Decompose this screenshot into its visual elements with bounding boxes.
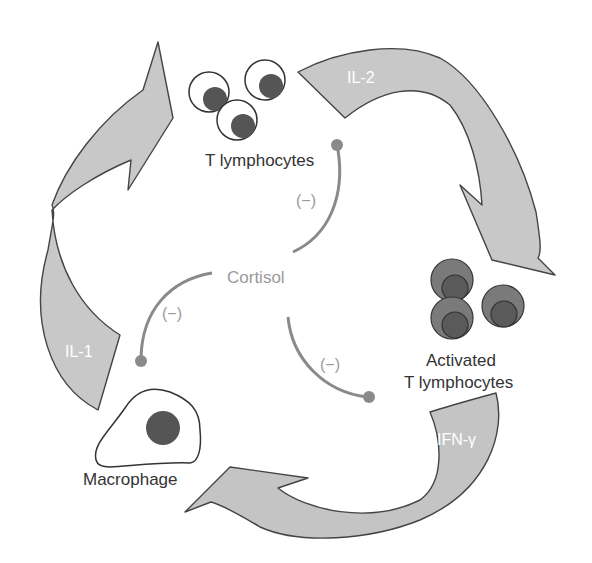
- ifng-arrow: [185, 393, 499, 538]
- il1-arrow: [41, 42, 173, 410]
- t-lymphocytes-cells: [189, 60, 285, 140]
- macrophage-cell: [95, 389, 200, 467]
- activated-label-line1: Activated: [426, 351, 496, 370]
- inhibition-sign-activated: (−): [320, 356, 340, 373]
- inhibition-sign-t-lymphocytes: (−): [296, 192, 316, 209]
- cycle-diagram: IL-2 IL-1 IFN-γ T lymphocytes: [0, 0, 592, 563]
- activated-t-lymphocyte-cell: [431, 297, 473, 339]
- t-lymphocytes-label: T lymphocytes: [205, 151, 314, 170]
- macrophage-label: Macrophage: [83, 470, 178, 489]
- inhibition-sign-macrophage: (−): [162, 305, 182, 322]
- t-lymphocyte-cell: [217, 100, 257, 140]
- activated-t-lymphocytes-cells: [431, 259, 524, 339]
- il2-arrow: [298, 49, 555, 275]
- activated-t-lymphocyte-cell: [431, 259, 473, 301]
- t-lymphocyte-cell: [245, 60, 285, 100]
- il2-label: IL-2: [347, 69, 375, 86]
- ifng-label: IFN-γ: [437, 431, 476, 448]
- activated-t-lymphocyte-cell: [482, 285, 524, 327]
- activated-label-line2: T lymphocytes: [404, 373, 513, 392]
- cortisol-label: Cortisol: [227, 268, 285, 287]
- il1-label: IL-1: [65, 343, 93, 360]
